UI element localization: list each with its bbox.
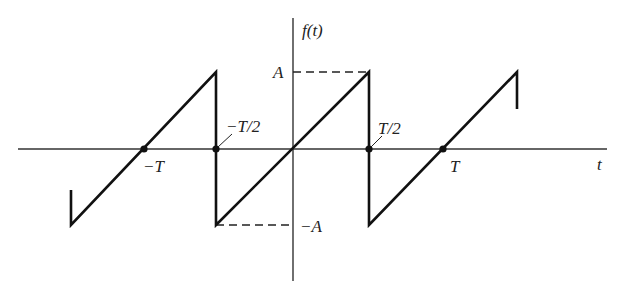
point-T <box>439 145 446 152</box>
point-neg-T <box>140 145 147 152</box>
sawtooth-diagram: f(t) A −A t −T −T/2 T/2 T <box>0 0 622 294</box>
function-label: f(t) <box>302 21 323 40</box>
tick-label-neg-half-T: −T/2 <box>226 117 261 136</box>
tick-label-neg-T: −T <box>143 157 165 176</box>
tick-label-T: T <box>450 157 461 176</box>
neg-amplitude-label: −A <box>300 217 322 236</box>
amplitude-label: A <box>272 63 284 82</box>
tick-label-half-T: T/2 <box>378 119 401 138</box>
x-axis-label: t <box>597 155 603 174</box>
